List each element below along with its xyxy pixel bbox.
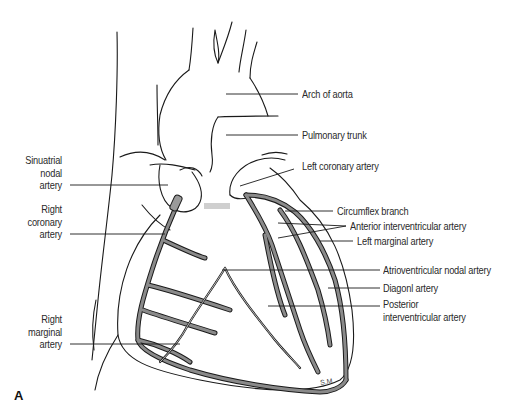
label-line: coronary [14, 216, 62, 229]
right-border-outline [92, 32, 117, 360]
label-left-marginal-artery: Left marginal artery [357, 235, 433, 248]
left-subclavian-outline [239, 30, 246, 72]
heart-illustration [0, 0, 516, 413]
label-diagonal-artery: Diagonl artery [383, 282, 438, 295]
label-circumflex-branch: Circumflex branch [337, 205, 408, 218]
label-anterior-interventricular-artery: Anterior interventricular artery [350, 220, 466, 233]
aorta-outline [159, 70, 189, 160]
label-line: Posterior [383, 298, 466, 311]
label-pulmonary-trunk: Pulmonary trunk [302, 129, 367, 142]
label-right-marginal-artery: Right marginal artery [14, 313, 62, 351]
label-line: nodal [14, 167, 62, 180]
left-auricle-outline [230, 158, 285, 195]
superior-vena-cava-outline [157, 85, 158, 145]
left-common-carotid-outline [218, 22, 232, 63]
label-line: Sinuatrial [14, 154, 62, 167]
brachiocephalic-trunk-outline [189, 28, 193, 70]
label-right-coronary-artery: Right coronary artery [14, 203, 62, 241]
label-line: artery [14, 179, 62, 192]
pulmonary-trunk-outline [218, 116, 278, 117]
panel-letter: A [14, 388, 23, 403]
label-atrioventricular-nodal-artery: Atrioventricular nodal artery [383, 264, 491, 277]
label-line: interventricular artery [383, 311, 466, 324]
label-line: Right [14, 313, 62, 326]
label-line: marginal [14, 326, 62, 339]
label-arch-of-aorta: Arch of aorta [302, 88, 353, 101]
heart-diagram: Sinuatrial nodal artery Right coronary a… [0, 0, 516, 413]
label-line: artery [14, 338, 62, 351]
label-line: Right [14, 203, 62, 216]
label-left-coronary-artery: Left coronary artery [302, 160, 379, 173]
label-sinuatrial-nodal-artery: Sinuatrial nodal artery [14, 154, 62, 192]
label-line: artery [14, 228, 62, 241]
sinuatrial-nodal-vessel [169, 194, 183, 212]
label-posterior-interventricular-artery: Posterior interventricular artery [383, 298, 466, 323]
posterior-interventricular-vessel [225, 268, 300, 368]
